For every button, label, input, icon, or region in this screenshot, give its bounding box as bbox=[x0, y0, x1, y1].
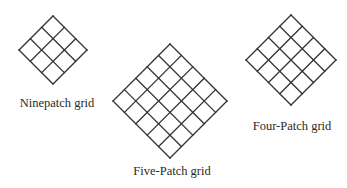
five-patch-grid-label: Five-Patch grid bbox=[133, 165, 210, 178]
four-patch-grid-label: Four-Patch grid bbox=[253, 120, 332, 133]
five-patch-grid-diagram bbox=[113, 44, 227, 158]
ninepatch-grid-label: Ninepatch grid bbox=[20, 97, 95, 110]
four-patch-grid-diagram bbox=[246, 15, 336, 105]
diagram-canvas bbox=[0, 0, 347, 188]
ninepatch-grid-diagram bbox=[19, 16, 87, 84]
